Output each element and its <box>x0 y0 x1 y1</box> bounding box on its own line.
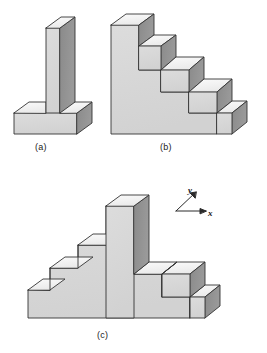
isometric-solids-figure <box>0 0 267 353</box>
solid-b-step4-front <box>189 92 217 113</box>
solid-b-staircase <box>111 14 247 134</box>
solid-a-base-front <box>14 113 77 134</box>
axis-y-label: y <box>188 185 192 195</box>
solid-c-ziggurat <box>28 195 220 318</box>
figure-label-b: (b) <box>160 142 172 152</box>
solid-b-step3-front <box>161 70 189 92</box>
solid-a-column-side <box>60 17 75 113</box>
figure-label-c: (c) <box>97 330 108 340</box>
axis-x-arrowhead <box>200 209 206 214</box>
solid-c-tower-side <box>134 195 149 274</box>
solid-c-base-front-right <box>190 297 205 318</box>
axis-triad <box>176 192 206 214</box>
axis-x-label: x <box>208 208 213 218</box>
solid-a-column-front <box>46 28 60 113</box>
solid-b-step2-front <box>139 46 161 70</box>
solid-a-base-top-left <box>14 102 46 113</box>
solid-a-t-shape <box>14 17 92 134</box>
solid-c-tier2-front-right <box>162 274 190 297</box>
solid-c-tower-front <box>106 206 134 318</box>
solid-b-step5-front <box>217 113 232 134</box>
figure-label-a: (a) <box>35 142 47 152</box>
